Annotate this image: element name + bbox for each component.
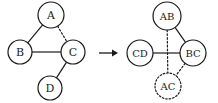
graph-edge-bc-ac bbox=[176, 63, 185, 75]
graph-node-ab[interactable]: AB bbox=[153, 2, 181, 30]
graph-node-c[interactable]: C bbox=[61, 40, 85, 64]
transform-arrow bbox=[99, 49, 118, 56]
node-label-ab: AB bbox=[159, 11, 175, 22]
diagram-canvas: ABCD ABCDBCAC bbox=[0, 0, 218, 103]
graph-node-a[interactable]: A bbox=[38, 2, 64, 28]
node-label-d: D bbox=[46, 82, 55, 95]
node-label-b: B bbox=[16, 46, 24, 59]
result-graph-nodes: ABCDBCAC bbox=[127, 2, 206, 99]
graph-edge-ab-bc bbox=[175, 27, 185, 42]
node-label-a: A bbox=[46, 9, 56, 22]
graph-transformation-figure: ABCD ABCDBCAC bbox=[0, 0, 218, 103]
node-label-ac: AC bbox=[160, 81, 176, 92]
node-label-c: C bbox=[69, 46, 77, 59]
graph-node-d[interactable]: D bbox=[38, 76, 62, 100]
node-label-cd: CD bbox=[132, 48, 148, 59]
graph-node-ac[interactable]: AC bbox=[155, 73, 181, 99]
source-graph-nodes: ABCD bbox=[8, 2, 85, 100]
arrow-head-icon bbox=[112, 49, 118, 56]
graph-node-b[interactable]: B bbox=[8, 40, 32, 64]
graph-edge-a-b bbox=[28, 25, 43, 43]
graph-edge-c-d bbox=[56, 62, 66, 78]
graph-edge-ab-ac bbox=[167, 30, 168, 73]
node-label-bc: BC bbox=[185, 48, 201, 59]
graph-node-cd[interactable]: CD bbox=[127, 40, 153, 66]
graph-edge-a-c bbox=[58, 26, 67, 42]
graph-node-bc[interactable]: BC bbox=[180, 40, 206, 66]
